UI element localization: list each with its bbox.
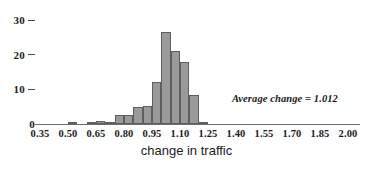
y-axis-tick: 30 — [8, 14, 35, 26]
histogram-bar — [133, 107, 142, 124]
histogram-bar — [143, 106, 152, 124]
y-axis-tick-mark — [28, 89, 35, 90]
histogram-bar — [152, 82, 161, 124]
y-axis-tick: 10 — [8, 83, 35, 95]
x-axis-title: change in traffic — [0, 143, 373, 158]
histogram-bar — [124, 115, 133, 124]
histogram-bar — [189, 95, 198, 124]
x-axis-line — [35, 124, 360, 125]
x-axis-tick-label: 0.50 — [59, 128, 78, 139]
x-axis-tick-label: 0.95 — [143, 128, 162, 139]
histogram-bar — [180, 62, 189, 124]
x-axis-tick-label: 1.25 — [199, 128, 218, 139]
x-axis-tick-label: 2.00 — [339, 128, 358, 139]
y-axis-tick: 20 — [8, 49, 35, 61]
histogram-chart: 0102030 0.350.500.650.800.951.101.251.40… — [0, 0, 373, 169]
x-axis-tick-label: 1.70 — [283, 128, 302, 139]
x-axis-tick-label: 0.35 — [31, 128, 50, 139]
x-axis-tick-label: 0.80 — [115, 128, 134, 139]
histogram-bar — [115, 115, 124, 124]
x-axis-tick-label: 1.40 — [227, 128, 246, 139]
histogram-bar — [161, 32, 170, 124]
y-axis-tick-mark — [28, 20, 35, 21]
x-axis-tick-label: 1.55 — [255, 128, 274, 139]
histogram-bar — [171, 51, 180, 124]
x-axis-tick-label: 0.65 — [87, 128, 106, 139]
x-axis-tick-label: 1.85 — [311, 128, 330, 139]
y-axis-tick-label: 10 — [14, 83, 25, 95]
x-axis-tick-label: 1.10 — [171, 128, 190, 139]
average-change-annotation: Average change = 1.012 — [232, 93, 338, 104]
y-axis-tick-label: 20 — [14, 49, 25, 61]
y-axis-tick-mark — [28, 54, 35, 55]
plot-area — [35, 14, 360, 125]
y-axis-tick-label: 30 — [14, 14, 25, 26]
